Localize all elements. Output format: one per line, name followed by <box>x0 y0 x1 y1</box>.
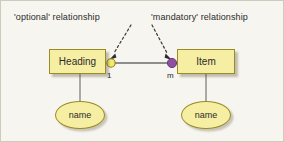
entity-box-heading[interactable]: Heading <box>49 49 106 74</box>
diagram-vector-layer <box>1 1 284 142</box>
leader-arrow-mandatory <box>152 25 167 53</box>
cardinality-label-one: 1 <box>107 71 111 80</box>
entity-label-heading: Heading <box>59 56 96 67</box>
attribute-ellipse-heading-name[interactable]: name <box>55 101 105 129</box>
annotation-label-optional: 'optional' relationship <box>14 12 100 22</box>
leader-arrow-optional <box>114 25 131 53</box>
mandatory-marker-icon <box>167 58 176 67</box>
attribute-label-item-name: name <box>195 110 218 120</box>
annotation-label-mandatory: 'mandatory' relationship <box>151 12 248 22</box>
entity-box-item[interactable]: Item <box>177 49 235 74</box>
diagram-canvas: 'optional' relationship 'mandatory' rela… <box>0 0 284 142</box>
cardinality-label-many: m <box>167 71 174 80</box>
attribute-label-heading-name: name <box>69 110 92 120</box>
entity-label-item: Item <box>196 56 215 67</box>
optional-marker-icon <box>107 59 115 67</box>
attribute-ellipse-item-name[interactable]: name <box>181 101 231 129</box>
